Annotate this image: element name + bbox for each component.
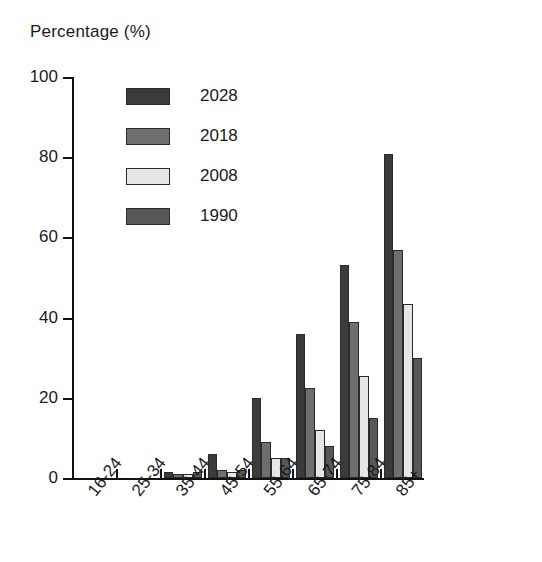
y-tick-label: 20	[39, 388, 58, 408]
y-tick-mark	[63, 318, 72, 320]
y-tick-mark	[63, 157, 72, 159]
bar-55-64-2018[interactable]	[261, 442, 271, 478]
legend-label-2008: 2008	[200, 166, 238, 186]
legend-item-2028[interactable]: 2028	[126, 76, 238, 116]
bar-85+-2028[interactable]	[384, 154, 394, 478]
legend-label-2018: 2018	[200, 126, 238, 146]
legend-label-1990: 1990	[200, 206, 238, 226]
legend-swatch-2018	[126, 128, 170, 145]
bar-75-84-2018[interactable]	[349, 322, 359, 478]
chart-legend: 2028201820081990	[126, 76, 238, 236]
legend-item-2008[interactable]: 2008	[126, 156, 238, 196]
bar-group-16-24	[72, 77, 116, 478]
bar-35-44-2028[interactable]	[164, 472, 174, 478]
legend-item-1990[interactable]: 1990	[126, 196, 238, 236]
legend-swatch-2028	[126, 88, 170, 105]
bar-group-85+	[380, 77, 424, 478]
legend-item-2018[interactable]: 2018	[126, 116, 238, 156]
bar-85+-1990[interactable]	[413, 358, 423, 478]
bar-85+-2008[interactable]	[403, 304, 413, 478]
bar-85+-2018[interactable]	[393, 250, 403, 478]
y-tick-label: 80	[39, 147, 58, 167]
bar-75-84-2028[interactable]	[340, 265, 350, 478]
y-axis-title: Percentage (%)	[30, 22, 151, 42]
bar-group-75-84	[336, 77, 380, 478]
y-tick-label: 0	[49, 468, 58, 488]
bar-group-65-74	[292, 77, 336, 478]
y-tick-label: 40	[39, 308, 58, 328]
legend-swatch-2008	[126, 168, 170, 185]
y-tick-label: 100	[30, 67, 58, 87]
plot-area: 020406080100	[72, 77, 424, 478]
y-tick-mark	[63, 237, 72, 239]
y-tick-mark	[63, 398, 72, 400]
bar-group-55-64	[248, 77, 292, 478]
legend-label-2028: 2028	[200, 86, 238, 106]
bar-65-74-2028[interactable]	[296, 334, 306, 478]
legend-swatch-1990	[126, 208, 170, 225]
y-tick-mark	[63, 478, 72, 480]
y-tick-mark	[63, 77, 72, 79]
y-tick-label: 60	[39, 227, 58, 247]
bar-65-74-2018[interactable]	[305, 388, 315, 478]
bar-chart-figure: Percentage (%) 020406080100 16-2425-3435…	[0, 0, 542, 562]
